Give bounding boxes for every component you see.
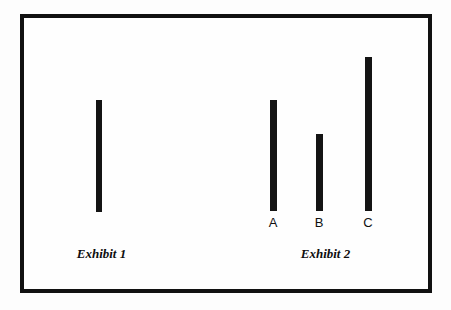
exhibit-2-bar-b-label: B — [307, 216, 331, 230]
exhibit-2-bar-c-label: C — [356, 216, 380, 230]
exhibit-2-bar-b — [316, 134, 323, 211]
exhibit-2-panel: A B C Exhibit 2 — [24, 18, 428, 289]
figure-screenshot: Exhibit 1 A B C Exhibit 2 — [0, 0, 451, 310]
exhibit-2-caption: Exhibit 2 — [288, 246, 363, 261]
exhibit-2-bar-a — [270, 100, 277, 211]
figure-frame-border: Exhibit 1 A B C Exhibit 2 — [20, 14, 432, 293]
exhibit-2-bar-c — [365, 57, 372, 211]
exhibit-2-bar-a-label: A — [261, 216, 285, 230]
